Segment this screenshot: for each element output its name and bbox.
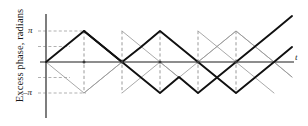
node-4 [235, 61, 238, 64]
node-1 [121, 61, 124, 64]
node-2 [159, 61, 162, 64]
bold-path-line [46, 16, 292, 93]
y-tick-label-pi: π [28, 25, 33, 35]
node-0 [83, 61, 86, 64]
trellis-light-paths [46, 16, 292, 93]
phase-trellis-figure: Excess phase, radians π –π t [0, 0, 308, 126]
y-axis-label: Excess phase, radians [14, 0, 25, 119]
bold-phase-trajectory [46, 16, 292, 93]
y-tick-label-neg-pi: –π [23, 87, 32, 97]
x-axis-label: t [295, 52, 298, 62]
plot-canvas [0, 0, 308, 126]
axes [40, 14, 294, 118]
node-3 [197, 61, 200, 64]
